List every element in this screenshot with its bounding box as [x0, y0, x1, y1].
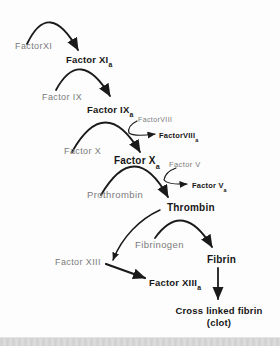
node-factor-viiia: FactorVIIIa — [159, 132, 198, 142]
node-prothrombin: Prothrombin — [87, 190, 143, 200]
arrow-thrombin-to-factorxiii — [113, 210, 160, 260]
clot-text: (clot) — [173, 318, 265, 328]
node-factor-xiii: Factor XIII — [55, 258, 101, 267]
node-fibrinogen: Fibrinogen — [135, 240, 184, 250]
node-factor-ix: Factor IX — [42, 93, 82, 102]
coagulation-cascade-diagram: FactorXI Factor XIa Factor IX Factor IXa… — [0, 0, 280, 346]
cascade-arrows-layer — [0, 0, 280, 346]
node-cross-linked-fibrin: Cross linked fibrin (clot) — [173, 306, 265, 327]
node-factor-xiiia: Factor XIIIa — [149, 278, 201, 291]
cross-linked-fibrin-text: Cross linked fibrin — [173, 306, 265, 316]
node-factor-xi: FactorXI — [15, 42, 52, 51]
node-factor-xa: Factor Xa — [114, 156, 160, 168]
bottom-gray-bar — [0, 337, 280, 346]
arrow-factorv-to-factorva — [164, 168, 187, 184]
arrow-factorviii-to-factorviiia — [129, 121, 155, 135]
node-factor-va: Factor Va — [192, 182, 227, 192]
node-thrombin: Thrombin — [167, 203, 215, 213]
arrow-factorxiii-to-factorxiiia — [106, 264, 145, 278]
node-factor-viii: FactorVIII — [138, 116, 172, 123]
node-factor-x: Factor X — [64, 147, 101, 156]
node-factor-xia: Factor XIa — [66, 55, 112, 68]
node-factor-ixa: Factor IXa — [87, 105, 133, 118]
node-fibrin: Fibrin — [207, 255, 236, 265]
node-factor-v: Factor V — [169, 161, 201, 169]
